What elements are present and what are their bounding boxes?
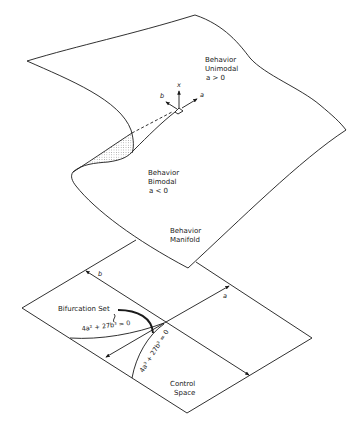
manifold-axes: x b a bbox=[160, 81, 204, 114]
control-a-label: a bbox=[223, 292, 227, 300]
svg-text:Manifold: Manifold bbox=[170, 236, 200, 244]
control-b-label: b bbox=[98, 270, 102, 278]
manifold-left-edge-upper bbox=[27, 61, 133, 153]
svg-text:Control: Control bbox=[170, 380, 195, 388]
axis-x-label: x bbox=[176, 81, 181, 89]
equation-upper: 4a² + 27b³ = 0 bbox=[81, 319, 131, 333]
svg-text:Behavior: Behavior bbox=[205, 56, 236, 64]
svg-text:Unimodal: Unimodal bbox=[205, 65, 238, 73]
manifold-bottom-right-edge bbox=[188, 130, 346, 268]
svg-text:Bimodal: Bimodal bbox=[148, 178, 177, 186]
axis-b-label: b bbox=[160, 92, 164, 100]
manifold-left-edge-lower bbox=[72, 172, 188, 268]
a-axis bbox=[166, 286, 229, 322]
b-axis bbox=[86, 271, 166, 322]
manifold-top-edge bbox=[27, 15, 195, 61]
svg-text:a > 0: a > 0 bbox=[206, 74, 225, 82]
svg-text:Behavior: Behavior bbox=[148, 169, 179, 177]
behavior-manifold: x b a Behavior Unimodal a > 0 Behavior B… bbox=[27, 15, 346, 268]
label-unimodal: Behavior Unimodal a > 0 bbox=[205, 56, 238, 82]
control-space-outline bbox=[22, 240, 312, 413]
svg-text:Space: Space bbox=[174, 389, 195, 397]
svg-text:a < 0: a < 0 bbox=[149, 187, 168, 195]
bifurcation-set-label: Bifurcation Set bbox=[58, 305, 110, 313]
axis-a-label: a bbox=[200, 91, 204, 99]
label-control-space: Control Space bbox=[170, 380, 195, 397]
label-behavior-manifold: Behavior Manifold bbox=[170, 227, 201, 244]
svg-text:Behavior: Behavior bbox=[170, 227, 201, 235]
control-space: b a Bifurcation Set 4a² + 27b³ = 0 4a³ +… bbox=[22, 240, 312, 413]
label-bimodal: Behavior Bimodal a < 0 bbox=[148, 169, 179, 195]
cusp-catastrophe-diagram: x b a Behavior Unimodal a > 0 Behavior B… bbox=[0, 0, 363, 432]
fold-hidden-line bbox=[132, 112, 172, 133]
lower-right-arrow bbox=[166, 322, 249, 375]
